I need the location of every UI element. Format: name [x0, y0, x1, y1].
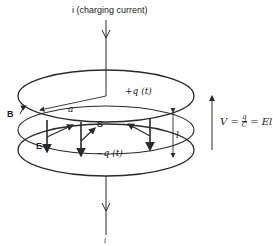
poynting-label: S	[97, 119, 103, 129]
equation-rhs: = El	[250, 116, 272, 127]
equation-lhs: V =	[220, 116, 239, 127]
bottom-current-label: i	[104, 237, 106, 245]
charging-current-label: i (charging current)	[72, 5, 148, 15]
fraction: q C	[242, 114, 247, 129]
poynting-arrow-icon	[81, 128, 95, 141]
radius-label: a	[68, 104, 73, 114]
gap-label: l	[176, 130, 179, 140]
e-field-label: E	[36, 141, 42, 151]
charging-current-text: i (charging current)	[72, 5, 148, 15]
poynting-arrow-icon	[47, 125, 73, 137]
bottom-charge-label: −q (t)	[96, 148, 123, 158]
b-field-arrow-icon	[20, 106, 26, 114]
b-field-loop	[18, 106, 194, 154]
b-field-label: B	[7, 109, 14, 119]
fraction-denominator: C	[242, 122, 247, 129]
top-charge-label: +q (t)	[125, 86, 152, 96]
equation: V = q C = El	[220, 114, 272, 129]
